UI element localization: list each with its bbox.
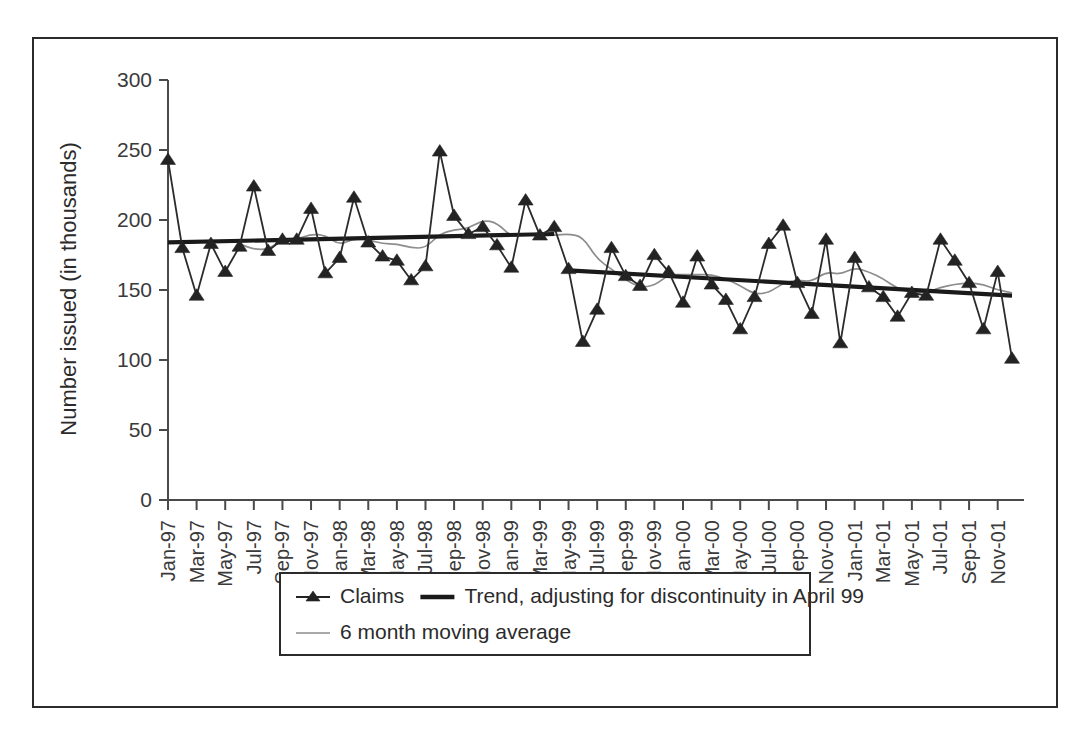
y-axis-ticks: 050100150200250300 [117, 68, 168, 511]
claims-marker [590, 303, 605, 314]
y-tick-label: 150 [117, 278, 152, 301]
x-tick-label: Jan-97 [157, 520, 179, 581]
x-tick-label: Mar-97 [186, 520, 208, 583]
claims-marker [804, 307, 819, 318]
claims-marker [947, 254, 962, 265]
y-axis-title: Number issued (in thousands) [56, 142, 81, 435]
claims-marker [161, 153, 176, 164]
claims-marker [332, 251, 347, 262]
chart-legend: ClaimsTrend, adjusting for discontinuity… [280, 573, 864, 655]
chart-canvas: Number issued (in thousands) 05010015020… [34, 39, 1056, 706]
x-tick-label: Nov-01 [987, 520, 1009, 584]
claims-marker [346, 191, 361, 202]
claims-marker [819, 233, 834, 244]
claims-marker [575, 335, 590, 346]
claims-marker [561, 262, 576, 273]
x-tick-label: Jan-01 [844, 520, 866, 581]
series-claims-markers [161, 145, 1020, 364]
claims-marker [761, 237, 776, 248]
y-tick-label: 250 [117, 138, 152, 161]
legend-label: 6 month moving average [340, 620, 571, 643]
claims-marker [962, 276, 977, 287]
claims-marker [976, 322, 991, 333]
x-tick-label: Jan-98 [329, 520, 351, 581]
claims-marker [690, 250, 705, 261]
claims-marker [547, 220, 562, 231]
claims-marker [1005, 352, 1020, 363]
claims-marker [890, 310, 905, 321]
claims-line [168, 151, 1012, 358]
claims-marker [833, 336, 848, 347]
y-tick-label: 300 [117, 68, 152, 91]
series-moving-average [240, 221, 1013, 294]
x-tick-label: May-01 [901, 520, 923, 587]
x-tick-label: Jul-01 [929, 520, 951, 574]
x-tick-label: Nov-00 [815, 520, 837, 584]
claims-marker [447, 209, 462, 220]
claims-marker [304, 202, 319, 213]
y-tick-label: 100 [117, 348, 152, 371]
claims-marker [604, 241, 619, 252]
claims-marker [933, 233, 948, 244]
claims-marker [490, 238, 505, 249]
y-tick-label: 200 [117, 208, 152, 231]
claims-marker [246, 180, 261, 191]
claims-marker [647, 248, 662, 259]
figure-root: Number issued (in thousands) 05010015020… [0, 0, 1085, 737]
claims-marker [432, 145, 447, 156]
claims-marker [218, 265, 233, 276]
y-axis-title-group: Number issued (in thousands) [56, 142, 81, 435]
x-tick-label: Jul-99 [586, 520, 608, 574]
claims-marker [518, 194, 533, 205]
figure-frame: Number issued (in thousands) 05010015020… [32, 37, 1058, 708]
y-tick-label: 0 [140, 488, 152, 511]
series-claims-line [168, 151, 1012, 358]
moving-average-line [240, 221, 1013, 294]
claims-marker [847, 251, 862, 262]
claims-marker [876, 290, 891, 301]
legend-label: Trend, adjusting for discontinuity in Ap… [464, 584, 864, 607]
x-tick-label: Mar-01 [872, 520, 894, 583]
claims-marker [504, 261, 519, 272]
x-tick-label: Sep-01 [958, 520, 980, 585]
claims-marker [675, 296, 690, 307]
claims-marker [418, 259, 433, 270]
x-tick-label: May-97 [214, 520, 236, 587]
claims-marker [733, 322, 748, 333]
x-tick-label: Jul-98 [414, 520, 436, 574]
x-tick-label: Jan-00 [672, 520, 694, 581]
claims-marker [990, 265, 1005, 276]
y-tick-label: 50 [129, 418, 152, 441]
x-tick-label: Jan-99 [500, 520, 522, 581]
legend-label: Claims [340, 584, 404, 607]
claims-marker [189, 289, 204, 300]
x-tick-label: Jul-00 [758, 520, 780, 574]
claims-marker [776, 219, 791, 230]
x-tick-label: Jul-97 [243, 520, 265, 574]
